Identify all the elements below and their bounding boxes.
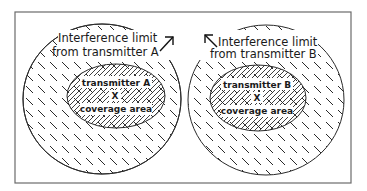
interference-label-a-line2: from transmitter A [52,45,159,59]
interference-diagram: Interference limit from transmitter A In… [0,0,367,191]
transmitter-a-label: transmitter A [82,78,150,88]
transmitter-b-label: transmitter B [223,80,291,90]
interference-label-a-line1: Interference limit [58,31,158,45]
interference-label-b-line2: from transmitter B [210,47,317,61]
transmitter-b-marker: X [254,93,261,103]
transmitter-a-marker: X [112,91,119,101]
coverage-area-a-label: coverage area [80,104,152,114]
coverage-area-b-label: coverage area [221,106,293,116]
